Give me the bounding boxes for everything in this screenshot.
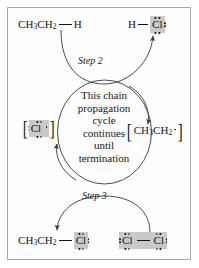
cl2-right-symbol: Cl: [154, 234, 165, 246]
cl2-bond: [137, 240, 150, 241]
ethane-ch-bond: [59, 24, 72, 25]
chloroethane-c1: CH: [18, 234, 33, 246]
cycle-text-line-2: propagation: [65, 102, 143, 115]
species-ethane: CH3CH2 H: [18, 19, 82, 31]
ethane-h: H: [74, 19, 82, 30]
cycle-text-line-3: cycle: [65, 114, 143, 127]
chloroethane-c2: CH: [37, 234, 52, 246]
hcl-h: H: [128, 19, 136, 30]
chloroethane-bond: [59, 240, 72, 241]
lone-pair-right-icon: [164, 21, 166, 29]
lone-pair-left-icon: [119, 237, 121, 245]
lone-pair-bottom-icon: [155, 246, 162, 250]
lone-pair-right-icon: [166, 237, 168, 245]
cycle-text-line-6: termination: [65, 152, 143, 165]
hcl-bond: [138, 24, 148, 25]
step2-label: Step 2: [78, 55, 103, 66]
ethyl-sub2: 2: [169, 128, 173, 137]
step2-arrow: [61, 30, 153, 84]
species-hydrogen-chloride: H Cl: [128, 16, 165, 33]
chloroethane-cl-atom: Cl: [74, 232, 89, 249]
lone-pair-right-icon: [88, 237, 90, 245]
chloroethane-sub2: 2: [53, 238, 57, 247]
lone-pair-top-icon: [155, 231, 162, 235]
lone-pair-top-icon: [154, 15, 161, 19]
hcl-cl-symbol: Cl: [152, 18, 163, 30]
lone-pair-top-icon: [77, 231, 84, 235]
radical-dot-icon: [46, 126, 48, 128]
cl2-left-atom: Cl: [120, 232, 135, 249]
chloroethane-cl-symbol: Cl: [76, 234, 87, 246]
cl2-right-atom: Cl: [152, 232, 167, 249]
lone-pair-bottom-icon: [77, 246, 84, 250]
chlorine-radical-symbol: Cl: [31, 122, 42, 134]
ethyl-c2: CH: [153, 124, 168, 136]
cycle-text-block: This chain propagation cycle continues u…: [65, 89, 143, 164]
lone-pair-top-icon: [35, 119, 42, 123]
cycle-text-line-5: until: [65, 139, 143, 152]
species-chlorine-molecule: Cl Cl: [119, 232, 167, 249]
ethyl-radical-bracket-close: ]: [177, 122, 182, 140]
chlorine-radical-bracket-close: ]: [50, 119, 55, 137]
lone-pair-top-icon: [124, 231, 131, 235]
reaction-cycle-figure: CH3CH2 H H Cl Step 2 [ Cl ] [ CH3CH2: [0, 0, 199, 268]
radical-dot-icon: [174, 129, 176, 131]
species-chlorine-radical: [ Cl ]: [22, 119, 56, 137]
species-chloroethane: CH3CH2 Cl: [18, 232, 88, 249]
step3-arrow: [57, 196, 150, 232]
step3-label: Step 3: [82, 190, 107, 201]
lone-pair-left-icon: [28, 124, 30, 132]
ethane-sub2: 2: [53, 22, 57, 31]
cycle-text-line-4: continues: [65, 127, 143, 140]
lone-pair-bottom-icon: [124, 246, 131, 250]
cl2-left-symbol: Cl: [122, 234, 133, 246]
chlorine-radical-atom: Cl: [29, 120, 50, 137]
ethane-c2: CH: [37, 18, 52, 30]
lone-pair-bottom-icon: [154, 30, 161, 34]
ethane-c1: CH: [18, 18, 33, 30]
cycle-text-line-1: This chain: [65, 89, 143, 102]
lone-pair-bottom-icon: [35, 134, 42, 138]
hcl-cl-atom: Cl: [150, 16, 165, 33]
